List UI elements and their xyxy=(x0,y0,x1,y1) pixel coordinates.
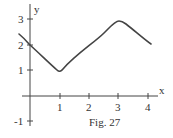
y-tick-label-1: 1 xyxy=(18,64,24,76)
x-tick-label-1: 1 xyxy=(57,101,63,113)
x-axis-label: x xyxy=(159,84,165,96)
y-tick-label-neg1: -1 xyxy=(14,115,23,127)
figure-caption: Fig. 27 xyxy=(89,116,121,128)
chart-canvas: 3 2 1 -1 1 2 3 4 y x Fig. 27 xyxy=(0,0,173,138)
x-tick-label-2: 2 xyxy=(86,101,92,113)
x-tick-label-4: 4 xyxy=(145,101,151,113)
y-axis-label: y xyxy=(34,3,40,15)
y-tick-label-3: 3 xyxy=(18,13,24,25)
x-tick-label-3: 3 xyxy=(115,101,121,113)
y-tick-label-2: 2 xyxy=(18,39,24,51)
function-curve xyxy=(19,21,151,71)
figure: 3 2 1 -1 1 2 3 4 y x Fig. 27 xyxy=(0,0,173,138)
